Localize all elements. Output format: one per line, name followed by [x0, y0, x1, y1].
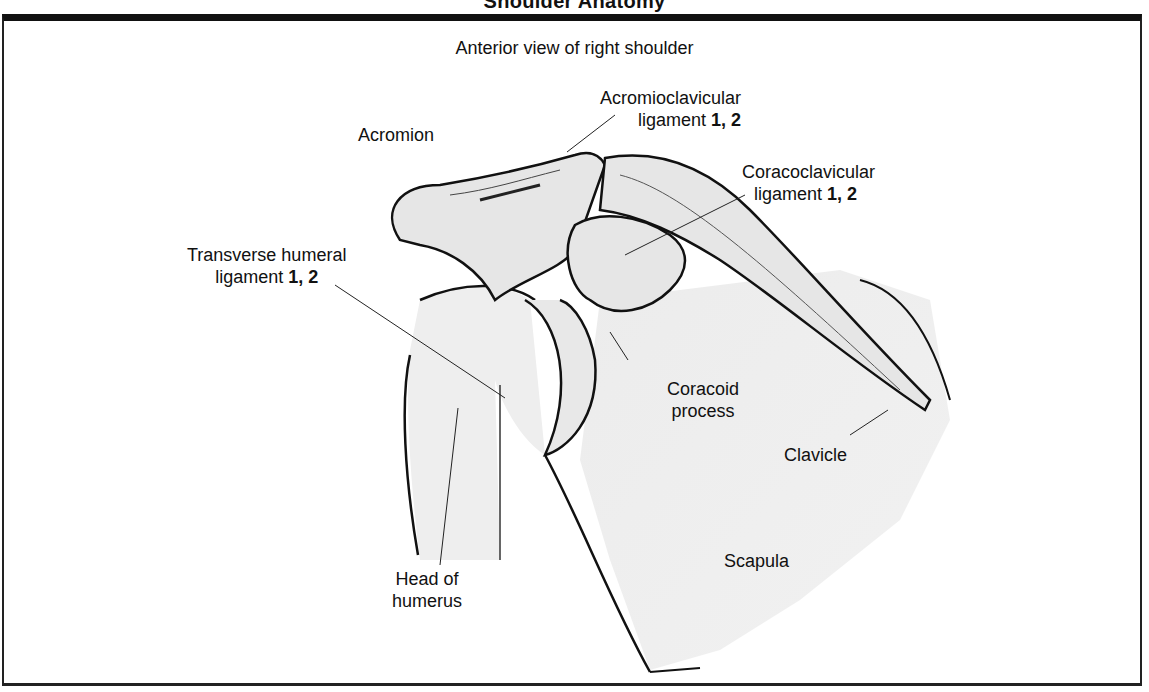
label-scapula: Scapula	[724, 550, 789, 572]
figure-subtitle: Anterior view of right shoulder	[0, 38, 1149, 59]
label-coracoclavicular-line1: Coracoclavicular	[742, 161, 875, 183]
label-humerus-line1: Head of	[392, 568, 462, 590]
label-transverse-line1: Transverse humeral	[187, 244, 346, 266]
label-head-of-humerus: Head of humerus	[392, 568, 462, 612]
label-acromioclavicular-line2: ligament 1, 2	[600, 109, 741, 131]
label-coracoid-line2: process	[667, 400, 739, 422]
label-transverse-line2: ligament 1, 2	[187, 266, 346, 288]
reference-number: 1, 2	[827, 184, 857, 204]
reference-number: 1, 2	[711, 110, 741, 130]
label-acromioclavicular-line1: Acromioclavicular	[600, 87, 741, 109]
label-acromion: Acromion	[358, 124, 434, 146]
label-transverse-humeral: Transverse humeral ligament 1, 2	[187, 244, 346, 288]
label-acromioclavicular: Acromioclavicular ligament 1, 2	[600, 87, 741, 131]
label-humerus-line2: humerus	[392, 590, 462, 612]
label-coracoid-process: Coracoid process	[667, 378, 739, 422]
reference-number: 1, 2	[288, 267, 318, 287]
label-coracoclavicular-line2: ligament 1, 2	[742, 183, 875, 205]
shoulder-illustration	[0, 0, 1149, 692]
label-clavicle: Clavicle	[784, 444, 847, 466]
label-coracoid-line1: Coracoid	[667, 378, 739, 400]
label-coracoclavicular: Coracoclavicular ligament 1, 2	[742, 161, 875, 205]
